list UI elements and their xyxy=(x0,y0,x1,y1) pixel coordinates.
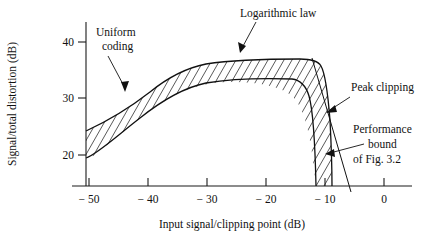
annotation-performance-bound-line3: of Fig. 3.2 xyxy=(353,153,401,166)
y-tick-label-30: 30 xyxy=(63,92,75,104)
x-axis-title: Input signal/clipping point (dB) xyxy=(159,218,305,231)
annotation-uniform-coding-line1: Uniform xyxy=(96,26,136,38)
annotation-peak-clipping-label: Peak clipping xyxy=(351,81,414,94)
x-tick-label-minus20: − 20 xyxy=(256,193,277,205)
annotation-peak-clipping: Peak clipping xyxy=(326,81,414,113)
x-tick-label-minus50: − 50 xyxy=(79,193,100,205)
annotation-logarithmic-law-leader xyxy=(242,22,256,48)
annotation-performance-bound: Performance bound of Fig. 3.2 xyxy=(325,123,412,166)
figure-container: 40 30 20 − 50 − 40 − 30 − 20 − 10 0 Inpu… xyxy=(0,0,422,245)
x-tick-label-minus30: − 30 xyxy=(197,193,218,205)
x-tick-label-minus10: − 10 xyxy=(315,193,336,205)
curve-logarithmic-law xyxy=(86,59,332,186)
x-tick-label-minus40: − 40 xyxy=(138,193,159,205)
x-tick-label-zero: 0 xyxy=(381,193,387,205)
annotation-logarithmic-law-label: Logarithmic law xyxy=(240,7,317,20)
x-tick-labels: − 50 − 40 − 30 − 20 − 10 0 xyxy=(79,193,388,205)
y-tick-label-40: 40 xyxy=(63,36,75,48)
y-tick-label-20: 20 xyxy=(63,149,75,161)
annotation-performance-bound-leader xyxy=(330,144,364,153)
chart-svg: 40 30 20 − 50 − 40 − 30 − 20 − 10 0 Inpu… xyxy=(0,0,422,245)
annotation-uniform-coding-line2: coding xyxy=(102,40,134,53)
annotation-performance-bound-line1: Performance xyxy=(353,123,412,135)
y-axis-title: Signal/total distortion (dB) xyxy=(6,42,19,166)
annotation-uniform-coding: Uniform coding xyxy=(96,26,136,92)
y-tick-labels: 40 30 20 xyxy=(63,36,75,161)
annotation-logarithmic-law: Logarithmic law xyxy=(238,7,317,53)
annotation-performance-bound-line2: bound xyxy=(368,138,397,150)
annotation-uniform-coding-arrowhead xyxy=(121,81,129,92)
curve-performance-bound xyxy=(86,79,316,186)
